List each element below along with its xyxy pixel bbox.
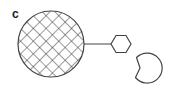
notched-circle-shape <box>136 53 163 83</box>
cross-hatched-sphere <box>18 11 84 77</box>
diagram <box>0 0 169 88</box>
hexagon-shape <box>111 36 131 53</box>
